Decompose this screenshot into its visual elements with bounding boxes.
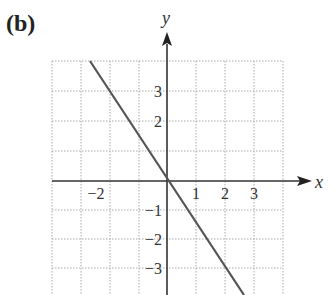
y-tick: 3 — [154, 83, 162, 100]
x-tick: 3 — [250, 185, 258, 202]
y-tick: −1 — [145, 202, 162, 219]
x-axis-label: x — [314, 172, 323, 192]
x-tick: −2 — [87, 185, 104, 202]
line-graph: x y −2 1 2 3 3 2 −1 −2 −3 — [0, 0, 335, 295]
y-axis-label: y — [160, 8, 170, 28]
y-tick: 2 — [154, 113, 162, 130]
y-tick: −2 — [145, 231, 162, 248]
x-tick: 2 — [221, 185, 229, 202]
y-axis-arrow-icon — [162, 32, 172, 46]
x-tick: 1 — [192, 185, 200, 202]
axes — [52, 44, 300, 295]
y-tick: −3 — [145, 260, 162, 277]
